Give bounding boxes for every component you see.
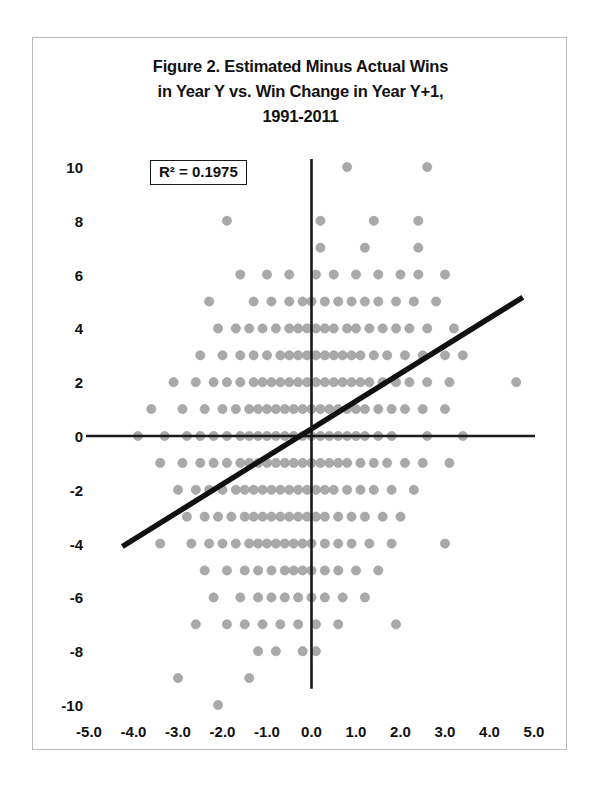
scatter-point bbox=[249, 351, 258, 360]
scatter-point bbox=[423, 162, 432, 171]
scatter-point bbox=[405, 324, 414, 333]
scatter-point bbox=[240, 485, 249, 494]
scatter-point bbox=[249, 485, 258, 494]
scatter-point bbox=[267, 593, 276, 602]
scatter-point bbox=[320, 512, 329, 521]
scatter-point bbox=[276, 378, 285, 387]
scatter-point bbox=[369, 351, 378, 360]
scatter-point bbox=[338, 351, 347, 360]
scatter-point bbox=[258, 512, 267, 521]
scatter-point bbox=[258, 485, 267, 494]
scatter-point bbox=[432, 297, 441, 306]
scatter-point bbox=[387, 405, 396, 414]
scatter-point bbox=[369, 485, 378, 494]
scatter-point bbox=[320, 324, 329, 333]
scatter-point bbox=[374, 566, 383, 575]
scatter-point bbox=[365, 539, 374, 548]
scatter-point bbox=[280, 405, 289, 414]
scatter-point bbox=[414, 243, 423, 252]
y-tick-label: -6 bbox=[39, 589, 83, 606]
scatter-point bbox=[320, 566, 329, 575]
scatter-point bbox=[391, 620, 400, 629]
scatter-point bbox=[387, 485, 396, 494]
scatter-point bbox=[200, 405, 209, 414]
scatter-point bbox=[414, 270, 423, 279]
scatter-point bbox=[325, 405, 334, 414]
scatter-point bbox=[316, 216, 325, 225]
scatter-point bbox=[445, 458, 454, 467]
scatter-point bbox=[254, 593, 263, 602]
y-tick-label: -2 bbox=[39, 481, 83, 498]
scatter-point bbox=[356, 458, 365, 467]
scatter-point bbox=[191, 378, 200, 387]
scatter-point bbox=[285, 297, 294, 306]
scatter-point bbox=[414, 216, 423, 225]
scatter-point bbox=[289, 405, 298, 414]
scatter-point bbox=[147, 405, 156, 414]
scatter-point bbox=[351, 566, 360, 575]
scatter-point bbox=[289, 458, 298, 467]
scatter-point bbox=[289, 539, 298, 548]
scatter-point bbox=[285, 485, 294, 494]
scatter-point bbox=[156, 458, 165, 467]
scatter-point bbox=[356, 378, 365, 387]
scatter-point bbox=[396, 270, 405, 279]
scatter-point bbox=[267, 485, 276, 494]
scatter-point bbox=[294, 593, 303, 602]
scatter-point bbox=[182, 512, 191, 521]
scatter-point bbox=[245, 324, 254, 333]
scatter-point bbox=[343, 324, 352, 333]
scatter-point bbox=[356, 351, 365, 360]
scatter-point bbox=[334, 512, 343, 521]
scatter-point bbox=[249, 297, 258, 306]
scatter-point bbox=[294, 378, 303, 387]
scatter-point bbox=[258, 324, 267, 333]
scatter-point bbox=[205, 539, 214, 548]
scatter-point bbox=[285, 270, 294, 279]
scatter-point bbox=[320, 297, 329, 306]
scatter-point bbox=[267, 378, 276, 387]
scatter-point bbox=[285, 324, 294, 333]
scatter-point bbox=[178, 405, 187, 414]
scatter-point bbox=[383, 351, 392, 360]
scatter-point bbox=[445, 378, 454, 387]
scatter-point bbox=[271, 405, 280, 414]
scatter-point bbox=[222, 620, 231, 629]
scatter-point bbox=[378, 512, 387, 521]
scatter-point bbox=[298, 647, 307, 656]
scatter-point bbox=[285, 351, 294, 360]
scatter-point bbox=[191, 485, 200, 494]
scatter-point bbox=[231, 485, 240, 494]
scatter-point bbox=[249, 512, 258, 521]
y-tick-label: 8 bbox=[39, 212, 83, 229]
scatter-point bbox=[325, 458, 334, 467]
scatter-point bbox=[249, 378, 258, 387]
scatter-point bbox=[400, 351, 409, 360]
scatter-point bbox=[294, 351, 303, 360]
scatter-point bbox=[391, 324, 400, 333]
scatter-point bbox=[294, 324, 303, 333]
scatter-point bbox=[334, 458, 343, 467]
scatter-point bbox=[209, 378, 218, 387]
scatter-point bbox=[298, 297, 307, 306]
y-tick-label: 4 bbox=[39, 320, 83, 337]
scatter-point bbox=[271, 647, 280, 656]
scatter-point bbox=[245, 539, 254, 548]
scatter-point bbox=[236, 458, 245, 467]
scatter-point bbox=[271, 539, 280, 548]
scatter-point bbox=[440, 405, 449, 414]
scatter-point bbox=[191, 620, 200, 629]
scatter-point bbox=[391, 297, 400, 306]
scatter-point bbox=[276, 485, 285, 494]
scatter-point bbox=[360, 297, 369, 306]
scatter-point bbox=[240, 512, 249, 521]
scatter-point bbox=[289, 566, 298, 575]
scatter-point bbox=[356, 485, 365, 494]
scatter-point bbox=[409, 297, 418, 306]
x-tick-label: 5.0 bbox=[508, 723, 560, 740]
scatter-point bbox=[258, 620, 267, 629]
scatter-point bbox=[280, 566, 289, 575]
scatter-point bbox=[213, 512, 222, 521]
scatter-point bbox=[347, 378, 356, 387]
scatter-point bbox=[254, 647, 263, 656]
